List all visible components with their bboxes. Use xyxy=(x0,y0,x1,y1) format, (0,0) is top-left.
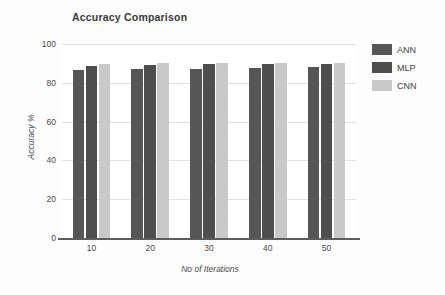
legend-swatch-ann xyxy=(372,44,392,55)
bar-ann-40 xyxy=(249,68,261,238)
legend-label: CNN xyxy=(397,81,417,91)
chart-figure: Accuracy Comparison 020406080100 1020304… xyxy=(0,0,445,295)
x-tick-label: 20 xyxy=(145,243,154,253)
bar-ann-10 xyxy=(73,70,85,238)
bar-mlp-40 xyxy=(262,64,274,238)
bar-cnn-50 xyxy=(334,63,346,238)
x-tick-label: 10 xyxy=(87,243,96,253)
x-tick-label: 50 xyxy=(322,243,331,253)
bars-layer xyxy=(62,44,356,238)
legend-swatch-cnn xyxy=(372,80,392,91)
bar-ann-30 xyxy=(190,69,202,238)
y-axis-title: Accuracy % xyxy=(26,97,36,177)
x-axis-tick-labels: 1020304050 xyxy=(62,243,356,259)
bar-cnn-20 xyxy=(157,63,169,238)
y-tick-label: 20 xyxy=(30,194,56,204)
x-tick-label: 40 xyxy=(263,243,272,253)
bar-cnn-40 xyxy=(275,63,287,238)
chart-legend: ANNMLPCNN xyxy=(372,42,442,96)
y-tick-label: 0 xyxy=(30,233,56,243)
legend-label: ANN xyxy=(397,45,416,55)
x-axis-title: No of Iterations xyxy=(0,264,420,274)
y-tick-label: 100 xyxy=(30,39,56,49)
legend-item-cnn[interactable]: CNN xyxy=(372,78,442,93)
legend-swatch-mlp xyxy=(372,62,392,73)
legend-label: MLP xyxy=(397,63,416,73)
bar-cnn-10 xyxy=(99,64,111,238)
bar-ann-20 xyxy=(131,69,143,238)
bar-mlp-10 xyxy=(86,66,98,238)
legend-item-mlp[interactable]: MLP xyxy=(372,60,442,75)
legend-item-ann[interactable]: ANN xyxy=(372,42,442,57)
bar-ann-50 xyxy=(308,67,320,238)
bar-mlp-20 xyxy=(144,65,156,238)
bar-mlp-50 xyxy=(321,64,333,238)
chart-title: Accuracy Comparison xyxy=(72,11,187,23)
x-axis-line xyxy=(58,238,360,240)
bar-cnn-30 xyxy=(216,63,228,238)
y-tick-label: 80 xyxy=(30,78,56,88)
bar-mlp-30 xyxy=(203,64,215,238)
x-tick-label: 30 xyxy=(204,243,213,253)
